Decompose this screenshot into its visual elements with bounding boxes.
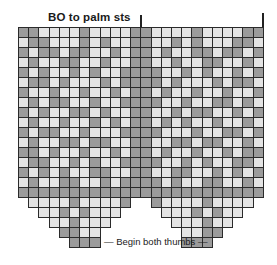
begin-thumbs-label: — Begin both thumbs — bbox=[104, 236, 208, 247]
right-edge-tick bbox=[262, 13, 264, 28]
stitch-cell bbox=[212, 227, 223, 238]
stitch-cell bbox=[120, 197, 131, 208]
stitch-cell bbox=[253, 187, 264, 198]
stitch-cell bbox=[110, 207, 121, 218]
stitch-cell bbox=[100, 217, 111, 228]
stitch-cell bbox=[222, 217, 233, 228]
stitch-cell bbox=[89, 237, 100, 248]
chart-title: BO to palm sts bbox=[48, 11, 131, 23]
stitch-cell bbox=[242, 197, 253, 208]
knitting-chart: BO to palm sts — Begin both thumbs — bbox=[0, 0, 277, 265]
stitch-cell bbox=[232, 207, 243, 218]
